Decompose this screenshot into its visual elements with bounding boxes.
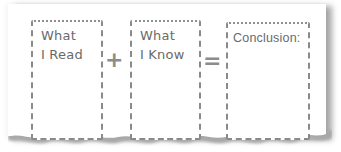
what-i-know-label: What I Know xyxy=(140,26,185,64)
what-i-read-box: What I Read xyxy=(31,20,103,140)
plus-icon: + xyxy=(105,49,123,71)
equals-icon: = xyxy=(203,50,221,72)
what-i-read-label: What I Read xyxy=(41,26,83,64)
what-i-know-box: What I Know xyxy=(130,20,201,140)
conclusion-label: Conclusion: xyxy=(233,29,301,48)
conclusion-box: Conclusion: xyxy=(226,22,310,140)
